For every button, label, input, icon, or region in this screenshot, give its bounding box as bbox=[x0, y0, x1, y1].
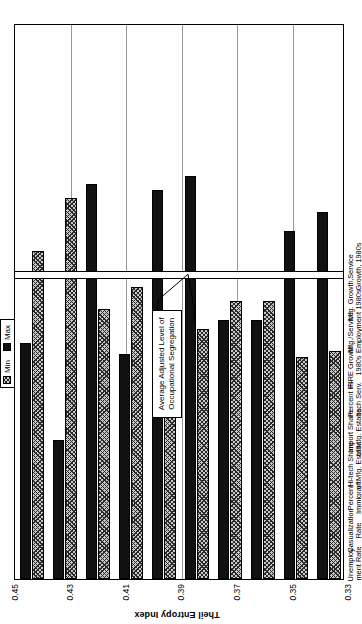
chart-figure: Theil Entropy Index 0.450.430.410.390.37… bbox=[0, 0, 362, 624]
y-axis-title: Theil Entropy Index bbox=[14, 608, 344, 622]
bar-min bbox=[131, 287, 143, 579]
y-tick-label: 0.45 bbox=[10, 584, 20, 601]
category-tick bbox=[213, 579, 214, 580]
bar-max bbox=[53, 440, 65, 579]
legend-swatch-min bbox=[3, 376, 11, 384]
callout-leader-line bbox=[154, 212, 212, 322]
bar-min bbox=[197, 329, 209, 579]
legend-item-max: Max bbox=[3, 325, 12, 351]
legend-label: Min bbox=[3, 360, 12, 373]
category-tick bbox=[15, 579, 16, 580]
y-tick-label: 0.43 bbox=[65, 584, 75, 601]
y-axis-tick-labels: 0.450.430.410.390.370.350.330.310.290.27… bbox=[14, 582, 344, 608]
bar-max bbox=[317, 212, 329, 579]
category-tick bbox=[48, 579, 49, 580]
bar-group bbox=[15, 25, 48, 579]
y-tick-label: 0.35 bbox=[288, 584, 298, 601]
bar-min bbox=[65, 198, 77, 579]
bar-group bbox=[48, 25, 81, 579]
bar-min bbox=[32, 251, 44, 579]
callout-label: Average Adjusted Level of Occupational S… bbox=[152, 310, 182, 418]
bar-min bbox=[329, 351, 341, 579]
bar-group bbox=[279, 25, 312, 579]
category-tick bbox=[180, 579, 181, 580]
bar-max bbox=[251, 320, 263, 579]
bar-group bbox=[312, 25, 344, 579]
bar-max bbox=[119, 354, 131, 579]
y-tick-label: 0.41 bbox=[121, 584, 131, 601]
bar-min bbox=[98, 309, 110, 579]
category-axis-labels: Unemploy- ment RateCasualization RatePer… bbox=[346, 24, 362, 580]
bar-group bbox=[213, 25, 246, 579]
bar-min bbox=[263, 301, 275, 579]
category-tick bbox=[279, 579, 280, 580]
bar-max bbox=[284, 232, 296, 580]
legend-item-min: Min bbox=[3, 360, 12, 384]
category-tick bbox=[114, 579, 115, 580]
bar-group bbox=[246, 25, 279, 579]
bar-group bbox=[114, 25, 147, 579]
legend-swatch-max bbox=[3, 343, 11, 351]
category-tick bbox=[312, 579, 313, 580]
bar-min bbox=[230, 301, 242, 579]
category-label: Service Growth, 1980s bbox=[347, 232, 362, 302]
category-tick bbox=[81, 579, 82, 580]
bar-min bbox=[296, 357, 308, 579]
y-tick-label: 0.37 bbox=[232, 584, 242, 601]
y-tick-label: 0.39 bbox=[176, 584, 186, 601]
legend-label: Max bbox=[3, 325, 12, 340]
bar-max bbox=[86, 184, 98, 579]
chart-legend: MinMax bbox=[0, 319, 15, 388]
bar-group bbox=[81, 25, 114, 579]
bar-max bbox=[20, 343, 32, 579]
y-axis-title-text: Theil Entropy Index bbox=[12, 610, 342, 620]
category-tick bbox=[246, 579, 247, 580]
bar-max bbox=[218, 320, 230, 579]
category-tick bbox=[147, 579, 148, 580]
plot-area: Average Adjusted Level of Occupational S… bbox=[14, 24, 344, 580]
